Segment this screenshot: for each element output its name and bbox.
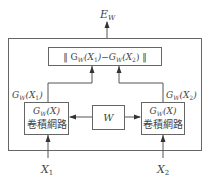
- left-cnn-function-label: GW(X): [33, 106, 60, 117]
- input-right-arrowhead-icon: [161, 135, 166, 142]
- right-connector-arrowhead-icon: [117, 66, 122, 73]
- right-output-label: GW(X2): [166, 90, 197, 101]
- left-output-label: GW(X1): [12, 90, 43, 101]
- left-cnn-label: 卷積網路: [27, 118, 67, 130]
- shared-weights-label: W: [103, 112, 114, 123]
- left-output-connector: [48, 66, 92, 102]
- right-output-connector: [119, 66, 163, 102]
- weights-right-arrowhead-icon: [134, 115, 141, 120]
- distance-formula: ‖ GW(X1)−GW(X2) ‖: [63, 52, 147, 63]
- right-cnn-label: 卷積網路: [143, 118, 183, 130]
- output-arrowhead-icon: [105, 21, 110, 28]
- output-label-ew: EW: [99, 8, 116, 22]
- input-left-arrowhead-icon: [46, 135, 51, 142]
- siamese-network-diagram: EW ‖ GW(X1)−GW(X2) ‖ GW(X1) GW(X2) GW(X)…: [0, 0, 209, 180]
- left-connector-arrowhead-icon: [90, 66, 95, 73]
- weights-left-arrowhead-icon: [69, 115, 76, 120]
- right-cnn-function-label: GW(X): [150, 106, 177, 117]
- input-label-x1: X1: [40, 163, 53, 177]
- input-label-x2: X2: [156, 163, 169, 177]
